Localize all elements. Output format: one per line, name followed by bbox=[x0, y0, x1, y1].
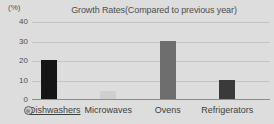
category-axis-labels: DishwashersMicrowavesOvensRefrigerators bbox=[32, 102, 270, 122]
y-axis-tick-label: 30 bbox=[19, 38, 28, 46]
bar-chart: (%) Growth Rates(Compared to previous ye… bbox=[0, 0, 274, 124]
cursor-target-icon bbox=[24, 106, 33, 115]
gridline bbox=[32, 42, 270, 43]
y-axis-unit-label: (%) bbox=[8, 3, 20, 12]
chart-title: Growth Rates(Compared to previous year) bbox=[40, 5, 268, 15]
bar-ovens[interactable] bbox=[160, 41, 176, 100]
bar-dishwashers[interactable] bbox=[41, 60, 57, 99]
y-axis-tick-label: 0 bbox=[24, 96, 28, 104]
category-label-ovens[interactable]: Ovens bbox=[155, 104, 181, 116]
gridline bbox=[32, 61, 270, 62]
y-axis-tick-label: 10 bbox=[19, 77, 28, 85]
y-axis-tick-label: 40 bbox=[19, 18, 28, 26]
category-label-refrigerators[interactable]: Refrigerators bbox=[201, 104, 253, 116]
plot-area: 403020100 bbox=[32, 22, 270, 100]
category-label-microwaves[interactable]: Microwaves bbox=[84, 104, 132, 116]
y-axis-tick-label: 20 bbox=[19, 57, 28, 65]
x-axis-line bbox=[32, 99, 270, 100]
gridline bbox=[32, 22, 270, 23]
category-label-dishwashers[interactable]: Dishwashers bbox=[29, 104, 81, 116]
bar-microwaves[interactable] bbox=[100, 91, 116, 99]
bar-refrigerators[interactable] bbox=[219, 80, 235, 100]
